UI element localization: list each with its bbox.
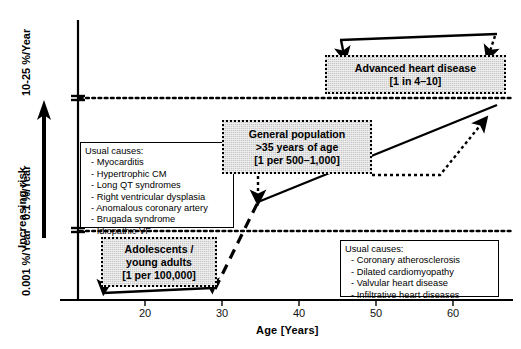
- causes-older-item: - Valvular heart disease: [345, 278, 493, 289]
- adolescents-box: Adolescents / young adults [1 per 100,00…: [101, 237, 217, 287]
- general-population-line2: >35 years of age: [256, 141, 339, 154]
- causes-young-item: - Hypertrophic CM: [85, 169, 228, 180]
- x-tick-label-40: 40: [279, 307, 319, 319]
- causes-young-item: - Myocarditis: [85, 157, 228, 168]
- causes-young-heading: Usual causes:: [85, 146, 228, 157]
- advanced-heart-disease-line1: Advanced heart disease: [355, 62, 476, 75]
- causes-young-item: - Long QT syndromes: [85, 180, 228, 191]
- y-tick-label-high: 10-25 %/Year: [20, 29, 32, 96]
- causes-young-item: - Anomalous coronary artery: [85, 203, 228, 214]
- adolescents-line2: young adults: [126, 256, 192, 269]
- x-tick-label-20: 20: [125, 307, 165, 319]
- advanced-heart-disease-box: Advanced heart disease [1 in 4–10]: [325, 55, 506, 94]
- causes-older-item: - Infiltrative heart diseases: [345, 290, 493, 301]
- causes-older-heading: Usual causes:: [345, 244, 493, 255]
- x-tick-label-30: 30: [202, 307, 242, 319]
- x-axis-title: Age [Years]: [256, 324, 319, 336]
- causes-young-item: - Idiopathic VF: [85, 226, 228, 237]
- causes-young-item: - Right ventricular dysplasia: [85, 192, 228, 203]
- advanced-heart-disease-line2: [1 in 4–10]: [390, 75, 442, 88]
- causes-young-box: Usual causes: - Myocarditis - Hypertroph…: [80, 142, 234, 228]
- general-population-line3: [1 per 500–1,000]: [254, 154, 339, 167]
- causes-older-item: - Dilated cardiomyopathy: [345, 267, 493, 278]
- x-tick-label-50: 50: [356, 307, 396, 319]
- general-population-box: General population >35 years of age [1 p…: [222, 120, 372, 174]
- x-tick-label-60: 60: [433, 307, 473, 319]
- adolescents-line3: [1 per 100,000]: [122, 269, 196, 282]
- causes-young-item: - Brugada syndrome: [85, 214, 228, 225]
- figure-canvas: 10-25 %/Year 0.1 %/Year 0.001 %/Year Inc…: [0, 0, 521, 349]
- general-population-line1: General population: [249, 128, 346, 141]
- causes-older-box: Usual causes: - Coronary atherosclerosis…: [340, 240, 499, 297]
- increasing-risk-label: Increasing risk: [16, 167, 28, 248]
- causes-older-item: - Coronary atherosclerosis: [345, 255, 493, 266]
- adolescents-line1: Adolescents /: [125, 243, 194, 256]
- increasing-risk-arrow: [37, 100, 51, 238]
- advanced-disease-bracket: [340, 34, 497, 55]
